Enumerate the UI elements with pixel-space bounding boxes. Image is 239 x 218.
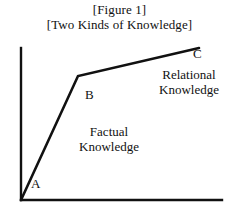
factual-knowledge-label-line-1: Factual	[66, 124, 152, 139]
point-label-c: C	[193, 47, 202, 60]
relational-knowledge-label: Relational Knowledge	[142, 67, 236, 97]
relational-knowledge-label-line-1: Relational	[142, 67, 236, 82]
point-label-a: A	[31, 177, 40, 190]
point-label-b: B	[85, 88, 94, 101]
relational-knowledge-label-line-2: Knowledge	[142, 82, 236, 97]
factual-knowledge-label: Factual Knowledge	[66, 124, 152, 154]
factual-knowledge-label-line-2: Knowledge	[66, 139, 152, 154]
figure-container: [Figure 1] [Two Kinds of Knowledge] A B …	[0, 0, 239, 218]
